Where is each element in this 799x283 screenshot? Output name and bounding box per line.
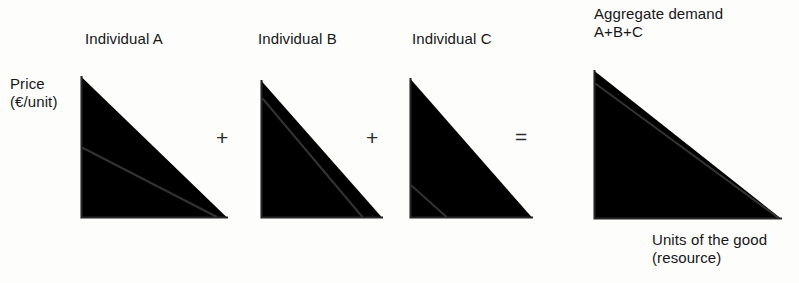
panel-c-axes	[411, 79, 533, 218]
panel-title-individual-b: Individual B	[258, 31, 337, 47]
y-axis-label-line-2: (€/unit)	[10, 94, 58, 110]
panel-a-graph	[82, 77, 228, 218]
aggregate-title-line-1: Aggregate demand	[594, 6, 723, 22]
aggregate-title-line-2: A+B+C	[594, 24, 643, 40]
aggregate-axes	[595, 71, 782, 219]
aggregate-demand-diagram: Individual A Individual B Individual C A…	[0, 0, 799, 283]
panel-a-axes	[82, 77, 228, 218]
panel-b-graph	[262, 81, 383, 218]
x-axis-label-line-1: Units of the good	[652, 232, 767, 248]
plus-operator-2: +	[366, 127, 378, 148]
panel-b-axes	[262, 81, 383, 218]
panel-c-graph	[411, 79, 533, 218]
panel-title-individual-a: Individual A	[85, 31, 163, 47]
x-axis-label-line-2: (resource)	[652, 250, 721, 266]
y-axis-label-line-1: Price	[10, 76, 45, 92]
plus-operator-1: +	[216, 127, 228, 148]
equals-operator: =	[515, 126, 527, 147]
panel-title-individual-c: Individual C	[412, 31, 492, 47]
aggregate-panel-graph	[595, 71, 782, 219]
